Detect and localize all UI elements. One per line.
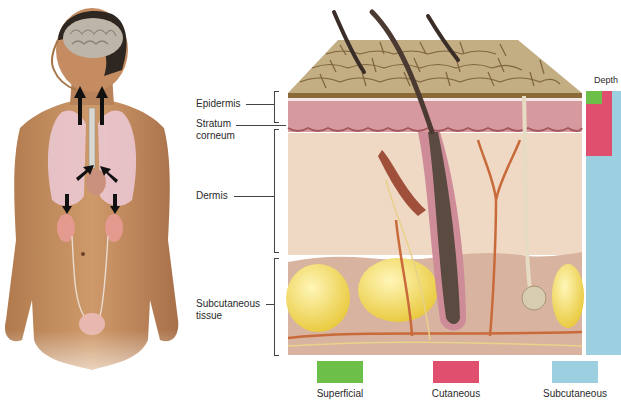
legend-swatch-superficial <box>317 361 363 383</box>
leader-line-dermis <box>234 196 274 197</box>
label-subcutaneous-line1: Subcutaneous <box>196 298 260 310</box>
legend-label-cutaneous: Cutaneous <box>406 388 506 399</box>
label-stratum-line2: corneum <box>196 130 235 142</box>
label-dermis: Dermis <box>196 190 228 202</box>
label-stratum-corneum: Stratum corneum <box>196 118 235 142</box>
depth-bar-superficial <box>586 91 602 104</box>
leader-line-subcutaneous <box>266 304 274 305</box>
bracket-epidermis <box>274 91 279 123</box>
legend-label-superficial: Superficial <box>290 388 390 399</box>
bracket-dermis <box>274 129 279 253</box>
depth-title: Depth <box>594 74 618 86</box>
label-subcutaneous-tissue: Subcutaneous tissue <box>196 298 260 322</box>
human-body-figure <box>0 8 190 400</box>
legend-swatch-subcutaneous <box>552 361 598 383</box>
legend-label-subcutaneous: Subcutaneous <box>525 388 621 399</box>
legend-swatch-cutaneous <box>433 361 479 383</box>
label-stratum-line1: Stratum <box>196 118 235 130</box>
label-epidermis: Epidermis <box>196 98 240 110</box>
leader-line-epidermis <box>246 104 274 105</box>
leader-line-stratum-corneum <box>236 125 286 126</box>
bracket-subcutaneous <box>274 258 279 356</box>
skin-cross-section <box>286 12 584 355</box>
illustration <box>0 0 621 400</box>
label-subcutaneous-line2: tissue <box>196 310 260 322</box>
